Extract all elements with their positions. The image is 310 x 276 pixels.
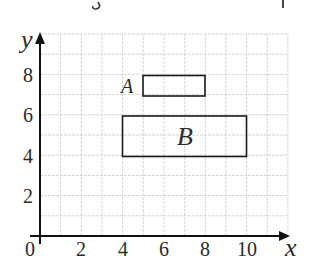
y-tick-label: 6 — [23, 104, 33, 126]
y-tick-label: 2 — [23, 185, 33, 207]
x-tick-label: 2 — [76, 238, 86, 260]
y-axis-arrow-icon — [35, 32, 45, 44]
rectangle-a — [143, 76, 205, 97]
grid — [40, 34, 288, 236]
x-tick-label: 4 — [118, 238, 128, 260]
cropped-header-text — [93, 0, 283, 9]
y-axis-label: y — [18, 25, 33, 54]
x-tick-label: 6 — [159, 238, 169, 260]
origin-label: 0 — [25, 238, 35, 260]
x-tick-label: 8 — [200, 238, 210, 260]
x-tick-label: 10 — [237, 238, 257, 260]
rectangle-b-label: B — [177, 122, 193, 151]
rectangle-a-label: A — [119, 75, 134, 97]
x-axis-label: x — [284, 233, 297, 262]
coordinate-diagram: y x 0 2 4 6 8 10 2 4 6 8 A B — [0, 0, 310, 276]
y-axis — [35, 32, 45, 244]
y-tick-label: 8 — [23, 64, 33, 86]
y-tick-label: 4 — [23, 145, 33, 167]
